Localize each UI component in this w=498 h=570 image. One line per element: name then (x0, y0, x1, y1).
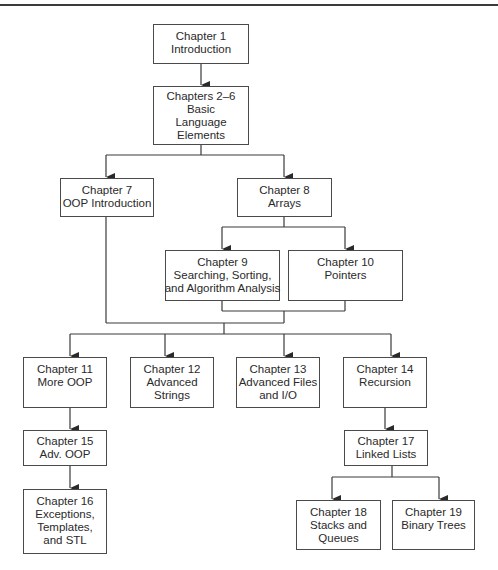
node-label: Chapters 2–6 (166, 90, 235, 103)
node-label: Chapter 7 (82, 184, 133, 197)
node-label: Basic (187, 103, 215, 116)
node-chapter-12: Chapter 12 Advanced Strings (130, 357, 214, 408)
node-chapter-11: Chapter 11 More OOP (23, 357, 107, 408)
node-label: Chapter 9 (197, 256, 248, 269)
node-label: Chapter 13 (250, 363, 307, 376)
node-chapter-15: Chapter 15 Adv. OOP (23, 430, 107, 466)
node-label: Recursion (359, 376, 411, 389)
node-label: Chapter 14 (357, 363, 414, 376)
node-chapter-9: Chapter 9 Searching, Sorting, and Algori… (165, 250, 280, 301)
node-label: Elements (177, 129, 225, 142)
node-label: Stacks and (310, 519, 367, 532)
node-label: Chapter 19 (405, 506, 462, 519)
node-label: Chapter 1 (176, 30, 227, 43)
node-chapter-17: Chapter 17 Linked Lists (344, 430, 428, 466)
node-label: Linked Lists (356, 448, 417, 461)
node-label: Pointers (324, 269, 366, 282)
node-chapter-13: Chapter 13 Advanced Files and I/O (236, 357, 320, 408)
node-chapters-2-6: Chapters 2–6 Basic Language Elements (153, 86, 249, 145)
node-label: and STL (43, 534, 86, 547)
node-label: and Algorithm Analysis (165, 282, 281, 295)
node-label: Advanced Files (239, 376, 318, 389)
node-label: OOP Introduction (63, 197, 152, 210)
node-label: Chapter 10 (317, 256, 374, 269)
node-chapter-7: Chapter 7 OOP Introduction (60, 178, 154, 217)
node-label: Arrays (268, 197, 301, 210)
node-label: Chapter 8 (259, 184, 310, 197)
node-label: Chapter 12 (144, 363, 201, 376)
node-label: Queues (318, 532, 358, 545)
node-label: and I/O (259, 389, 297, 402)
node-label: Chapter 17 (358, 435, 415, 448)
node-label: Chapter 18 (310, 506, 367, 519)
node-label: Exceptions, (35, 508, 94, 521)
node-label: Chapter 11 (37, 363, 93, 376)
node-chapter-14: Chapter 14 Recursion (343, 357, 427, 408)
node-label: Introduction (171, 43, 231, 56)
node-label: Language (175, 116, 226, 129)
node-label: Chapter 15 (37, 435, 94, 448)
node-chapter-19: Chapter 19 Binary Trees (392, 500, 475, 550)
node-chapter-8: Chapter 8 Arrays (237, 178, 332, 217)
node-label: Adv. OOP (40, 448, 91, 461)
node-label: Advanced (146, 376, 197, 389)
node-label: Binary Trees (401, 519, 466, 532)
node-label: Searching, Sorting, (174, 269, 272, 282)
node-chapter-18: Chapter 18 Stacks and Queues (296, 500, 381, 550)
node-chapter-16: Chapter 16 Exceptions, Templates, and ST… (23, 489, 107, 554)
node-label: Strings (154, 389, 190, 402)
node-chapter-1: Chapter 1 Introduction (153, 24, 249, 64)
node-label: Templates, (37, 521, 93, 534)
node-label: More OOP (38, 376, 93, 389)
node-label: Chapter 16 (37, 495, 94, 508)
node-chapter-10: Chapter 10 Pointers (288, 250, 403, 301)
